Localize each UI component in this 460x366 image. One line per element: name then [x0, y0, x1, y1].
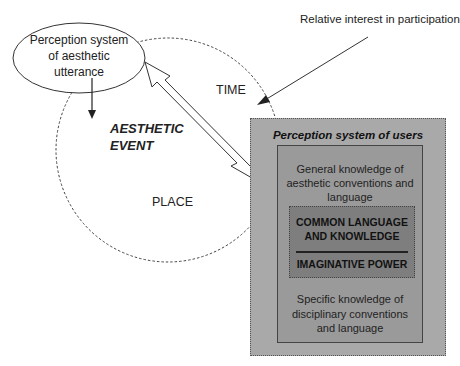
double-arrow-icon: [145, 62, 260, 178]
interest-arrow-head-icon: [257, 95, 270, 105]
relative-interest-label: Relative interest in participation: [300, 13, 460, 25]
aesthetic-event-label-2: EVENT: [110, 138, 153, 153]
users-box-title: Perception system of users: [250, 129, 446, 141]
aesthetic-event-label-1: AESTHETIC: [110, 121, 184, 136]
specific-knowledge-label: Specific knowledge of disciplinary conve…: [287, 292, 413, 336]
core-divider: [296, 251, 408, 253]
down-arrow-head-icon: [88, 110, 96, 119]
place-label: PLACE: [152, 195, 193, 209]
interest-arrow-line: [265, 37, 368, 100]
common-language-label: COMMON LANGUAGE AND KNOWLEDGE: [296, 215, 408, 243]
ellipse-label: Perception system of aesthetic utterance: [28, 32, 130, 80]
imaginative-power-label: IMAGINATIVE POWER: [291, 258, 413, 270]
time-label: TIME: [216, 83, 246, 97]
general-knowledge-label: General knowledge of aesthetic conventio…: [284, 162, 416, 204]
